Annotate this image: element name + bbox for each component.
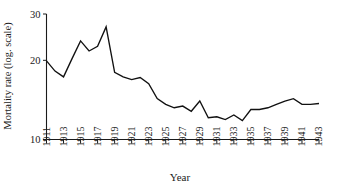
x-tick-label: 1911 <box>41 127 52 147</box>
x-tick-label: 1939 <box>279 127 290 147</box>
mortality-rate-series <box>47 27 320 121</box>
x-tick-label: 1937 <box>262 127 273 147</box>
y-tick-label: 30 <box>30 9 41 20</box>
x-tick-label: 1915 <box>75 127 86 147</box>
x-tick-label: 1943 <box>313 127 324 147</box>
y-axis-title: Mortality rate (log. scale) <box>2 22 14 130</box>
x-axis: 1911191319151917191919211923192519271929… <box>41 127 325 147</box>
x-tick-label: 1917 <box>92 127 103 147</box>
x-tick-label: 1927 <box>177 127 188 147</box>
y-tick-label: 10 <box>30 134 41 145</box>
x-tick-label: 1923 <box>143 127 154 147</box>
x-tick-label: 1921 <box>126 127 137 147</box>
x-tick-label: 1941 <box>296 127 307 147</box>
x-axis-title: Year <box>170 171 191 183</box>
y-tick-label: 20 <box>30 55 41 66</box>
x-tick-label: 1925 <box>160 127 171 147</box>
x-tick-label: 1931 <box>211 127 222 147</box>
x-tick-labels: 1911191319151917191919211923192519271929… <box>41 127 325 147</box>
chart-figure: 302010 191119131915191719191921192319251… <box>0 0 339 188</box>
x-tick-label: 1919 <box>109 127 120 147</box>
y-tick-labels: 302010 <box>30 9 41 146</box>
x-tick-label: 1935 <box>245 127 256 147</box>
x-tick-label: 1913 <box>58 127 69 147</box>
mortality-rate-line-chart: 302010 191119131915191719191921192319251… <box>0 0 339 188</box>
y-axis: 302010 <box>30 9 47 146</box>
x-tick-label: 1929 <box>194 127 205 147</box>
x-tick-label: 1933 <box>228 127 239 147</box>
